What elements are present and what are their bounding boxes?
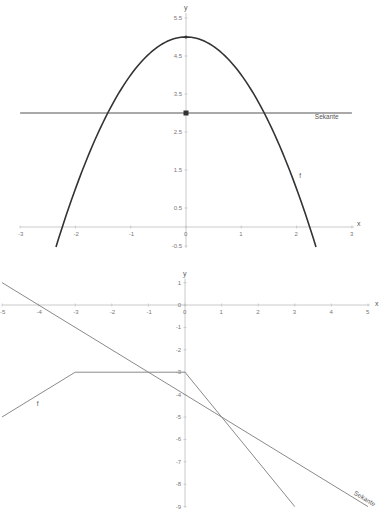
x-tick-label: -1: [146, 309, 152, 315]
x-tick-label: 0: [183, 309, 187, 315]
bottom-series: fSekante: [2, 283, 377, 508]
y-tick-label: -9: [176, 504, 182, 510]
curve-label-f: f: [37, 400, 39, 407]
x-axis-label: x: [375, 300, 379, 307]
y-tick-label: -5: [176, 414, 182, 420]
y-tick-label: -7: [176, 459, 182, 465]
x-tick-label: 5: [366, 309, 370, 315]
y-tick-label: 1: [178, 280, 182, 286]
x-tick-label: 3: [293, 309, 297, 315]
y-tick-label: -6: [176, 436, 182, 442]
x-tick-label: 2: [256, 309, 260, 315]
y-tick-label: -1: [176, 324, 182, 330]
bottom-axes: xy-5-4-3-2-101234510-1-2-3-4-5-6-7-8-9: [0, 270, 379, 510]
x-tick-label: -3: [73, 309, 79, 315]
x-tick-label: 4: [329, 309, 333, 315]
x-tick-label: -2: [110, 309, 116, 315]
x-tick-label: -5: [0, 309, 6, 315]
bottom-chart: xy-5-4-3-2-101234510-1-2-3-4-5-6-7-8-9 f…: [0, 0, 386, 521]
y-tick-label: -2: [176, 347, 182, 353]
y-axis-label: y: [183, 270, 187, 278]
y-tick-label: -8: [176, 481, 182, 487]
piecewise-f: [2, 372, 295, 506]
x-tick-label: 1: [220, 309, 224, 315]
x-tick-label: -4: [37, 309, 43, 315]
